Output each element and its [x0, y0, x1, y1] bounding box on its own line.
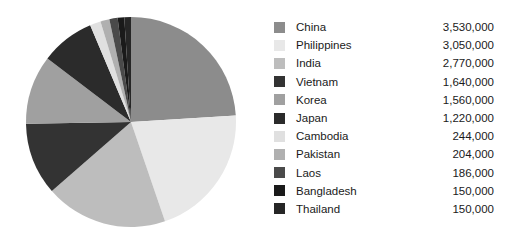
legend-swatch-laos [274, 167, 285, 178]
legend-value: 1,560,000 [422, 93, 494, 107]
legend-swatch-philippines [274, 40, 285, 51]
legend-label: Vietnam [296, 75, 422, 89]
legend-row[interactable]: Cambodia244,000 [274, 127, 494, 145]
legend-value: 3,530,000 [422, 20, 494, 34]
legend-swatch-japan [274, 113, 285, 124]
legend-row[interactable]: Philippines3,050,000 [274, 36, 494, 54]
legend-row[interactable]: Pakistan204,000 [274, 145, 494, 163]
legend-row[interactable]: China3,530,000 [274, 18, 494, 36]
legend-row[interactable]: Laos186,000 [274, 164, 494, 182]
legend-row[interactable]: India2,770,000 [274, 54, 494, 72]
legend-value: 204,000 [422, 147, 494, 161]
pie-chart-svg [25, 16, 237, 228]
legend-swatch-bangladesh [274, 185, 285, 196]
legend-swatch-korea [274, 94, 285, 105]
legend-label: Thailand [296, 202, 422, 216]
legend-row[interactable]: Japan1,220,000 [274, 109, 494, 127]
legend-value: 244,000 [422, 129, 494, 143]
legend-swatch-pakistan [274, 149, 285, 160]
legend-value: 150,000 [422, 184, 494, 198]
legend-value: 3,050,000 [422, 38, 494, 52]
legend-swatch-thailand [274, 203, 285, 214]
legend-row[interactable]: Korea1,560,000 [274, 91, 494, 109]
legend-label: China [296, 20, 422, 34]
pie-chart-plot-area [25, 16, 237, 228]
legend-label: Japan [296, 111, 422, 125]
legend-label: Korea [296, 93, 422, 107]
pie-slice-group [26, 17, 236, 227]
legend-swatch-cambodia [274, 131, 285, 142]
legend-label: Cambodia [296, 129, 422, 143]
pie-chart-figure: China3,530,000Philippines3,050,000India2… [0, 0, 506, 246]
legend-label: Pakistan [296, 147, 422, 161]
legend-row[interactable]: Bangladesh150,000 [274, 182, 494, 200]
legend-row[interactable]: Thailand150,000 [274, 200, 494, 218]
legend-value: 150,000 [422, 202, 494, 216]
chart-legend: China3,530,000Philippines3,050,000India2… [274, 18, 494, 218]
legend-value: 2,770,000 [422, 56, 494, 70]
legend-label: India [296, 56, 422, 70]
legend-row[interactable]: Vietnam1,640,000 [274, 73, 494, 91]
legend-label: Bangladesh [296, 184, 422, 198]
legend-value: 1,220,000 [422, 111, 494, 125]
legend-swatch-india [274, 58, 285, 69]
pie-slice-china[interactable] [131, 17, 236, 122]
legend-swatch-china [274, 22, 285, 33]
legend-value: 186,000 [422, 166, 494, 180]
legend-label: Philippines [296, 38, 422, 52]
legend-value: 1,640,000 [422, 75, 494, 89]
legend-label: Laos [296, 166, 422, 180]
legend-swatch-vietnam [274, 76, 285, 87]
